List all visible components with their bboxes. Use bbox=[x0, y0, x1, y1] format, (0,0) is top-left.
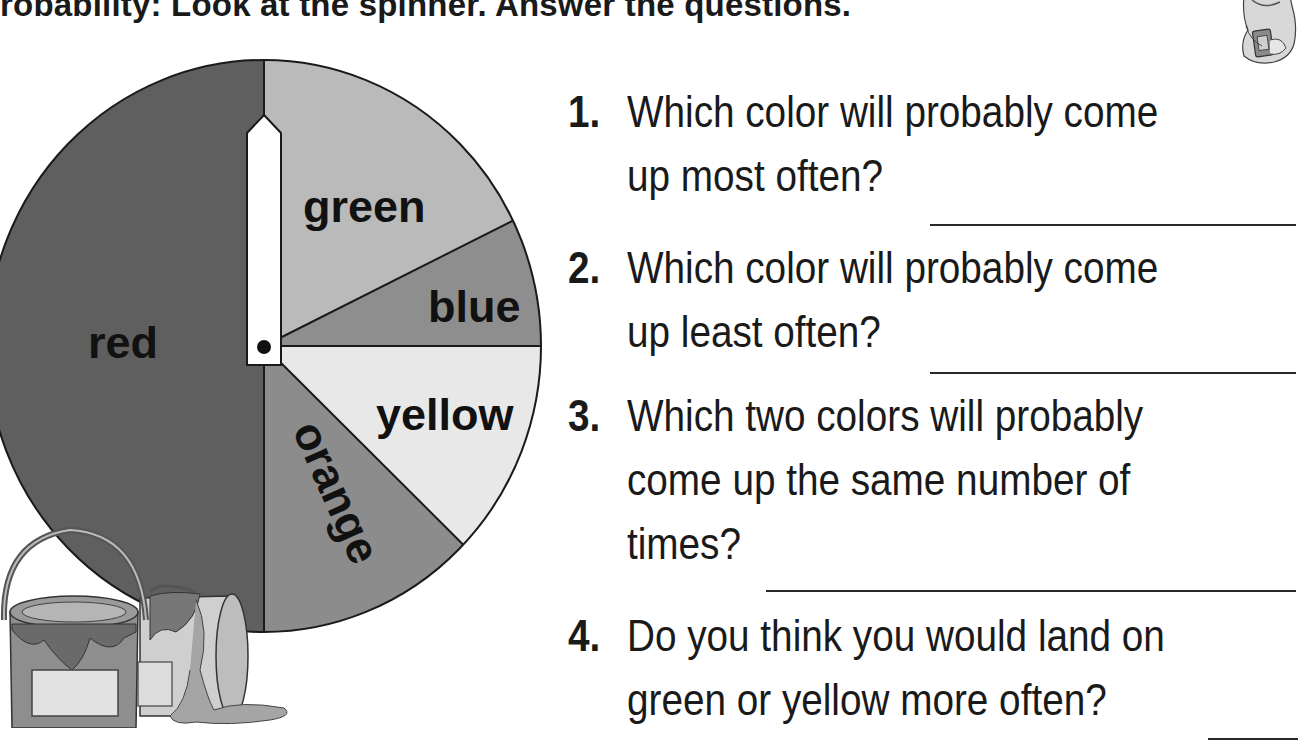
sector-label-green: green bbox=[303, 181, 426, 232]
sector-label-red: red bbox=[88, 317, 158, 368]
answer-line-3[interactable] bbox=[766, 550, 1296, 592]
answer-line-4[interactable] bbox=[1208, 698, 1298, 740]
question-number: 4. bbox=[568, 604, 600, 668]
question-number: 3. bbox=[568, 384, 600, 448]
answer-line-1[interactable] bbox=[930, 184, 1296, 226]
question-text: Which color will probably come bbox=[627, 80, 1158, 144]
sector-label-yellow: yellow bbox=[376, 389, 515, 440]
question-text: Which two colors will probably bbox=[627, 384, 1143, 448]
paint-cans-illustration bbox=[0, 520, 320, 728]
question-text: up most often? bbox=[627, 144, 883, 208]
sector-label-blue: blue bbox=[428, 281, 521, 332]
question-text: Do you think you would land on bbox=[627, 604, 1165, 668]
pointer-pivot bbox=[257, 340, 271, 354]
question-number: 1. bbox=[568, 80, 600, 144]
upright-paint-can bbox=[4, 530, 146, 728]
question-text: times? bbox=[627, 512, 741, 576]
tipped-paint-can bbox=[138, 586, 287, 724]
question-text: come up the same number of bbox=[627, 448, 1130, 512]
question-text: Which color will probably come bbox=[627, 236, 1158, 300]
question-text: green or yellow more often? bbox=[627, 668, 1107, 732]
student-calculator-illustration bbox=[1234, 0, 1298, 66]
answer-line-2[interactable] bbox=[930, 332, 1296, 374]
question-number: 2. bbox=[568, 236, 600, 300]
question-text: up least often? bbox=[627, 300, 881, 364]
spinner-pointer[interactable] bbox=[247, 115, 281, 365]
